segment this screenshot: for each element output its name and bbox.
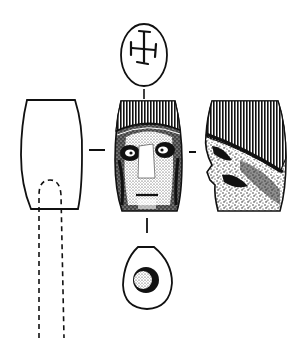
side-view-profile [206,101,286,211]
figure-canvas: bead-with-face [0,0,302,360]
bottom-view-perforation [123,247,172,309]
top-view [121,24,167,99]
front-view-face [115,101,196,233]
section-view [21,100,105,338]
